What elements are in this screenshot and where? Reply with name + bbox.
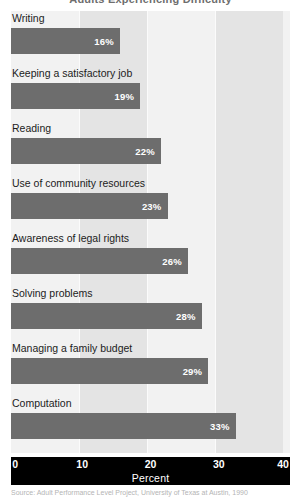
x-axis-title: Percent bbox=[11, 472, 290, 484]
bar-value-label: 28% bbox=[176, 303, 196, 329]
bar-rect[interactable]: 33% bbox=[11, 413, 236, 439]
bar-rect[interactable]: 16% bbox=[11, 28, 120, 54]
bar-category-label: Use of community resources bbox=[12, 176, 145, 191]
bar-value-label: 16% bbox=[94, 28, 114, 54]
x-tick-0: 0 bbox=[12, 458, 18, 470]
bar-category-label: Writing bbox=[12, 11, 44, 26]
bar-value-label: 26% bbox=[162, 248, 182, 274]
bar-group-solving-problems: Solving problems 28% bbox=[11, 286, 290, 341]
bar-group-use-of-community-resources: Use of community resources 23% bbox=[11, 176, 290, 231]
chart-title: Adults Experiencing Difficulty bbox=[0, 0, 301, 7]
bar-rect[interactable]: 26% bbox=[11, 248, 188, 274]
bar-category-label: Managing a family budget bbox=[12, 341, 132, 356]
bar-category-label: Solving problems bbox=[12, 286, 93, 301]
bar-group-computation: Computation 33% bbox=[11, 396, 290, 451]
bar-rect[interactable]: 23% bbox=[11, 193, 168, 219]
bar-rect[interactable]: 19% bbox=[11, 83, 140, 109]
bar-group-writing: Writing 16% bbox=[11, 11, 290, 66]
bar-value-label: 23% bbox=[142, 193, 162, 219]
bar-value-label: 19% bbox=[115, 83, 135, 109]
bar-category-label: Computation bbox=[12, 396, 72, 411]
bar-group-keeping-a-satisfactory-job: Keeping a satisfactory job 19% bbox=[11, 66, 290, 121]
bar-category-label: Awareness of legal rights bbox=[12, 231, 129, 246]
bar-chart-figure: Adults Experiencing Difficulty Writing 1… bbox=[0, 0, 301, 497]
x-tick-10: 10 bbox=[76, 458, 88, 470]
bar-rect[interactable]: 29% bbox=[11, 358, 208, 384]
bars-layer: Writing 16% Keeping a satisfactory job 1… bbox=[11, 11, 290, 453]
bar-category-label: Reading bbox=[12, 121, 51, 136]
bar-value-label: 22% bbox=[135, 138, 155, 164]
x-axis: 0 10 20 30 40 Percent bbox=[11, 457, 290, 485]
bar-value-label: 29% bbox=[183, 358, 203, 384]
x-tick-20: 20 bbox=[145, 458, 157, 470]
source-note: Source: Adult Performance Level Project,… bbox=[11, 488, 301, 497]
plot-area: Writing 16% Keeping a satisfactory job 1… bbox=[11, 11, 290, 453]
bar-group-awareness-of-legal-rights: Awareness of legal rights 26% bbox=[11, 231, 290, 286]
bar-rect[interactable]: 22% bbox=[11, 138, 161, 164]
x-tick-30: 30 bbox=[213, 458, 225, 470]
bar-group-reading: Reading 22% bbox=[11, 121, 290, 176]
bar-group-managing-a-family-budget: Managing a family budget 29% bbox=[11, 341, 290, 396]
bar-value-label: 33% bbox=[210, 413, 230, 439]
bar-category-label: Keeping a satisfactory job bbox=[12, 66, 132, 81]
bar-rect[interactable]: 28% bbox=[11, 303, 202, 329]
x-tick-40: 40 bbox=[277, 458, 289, 470]
